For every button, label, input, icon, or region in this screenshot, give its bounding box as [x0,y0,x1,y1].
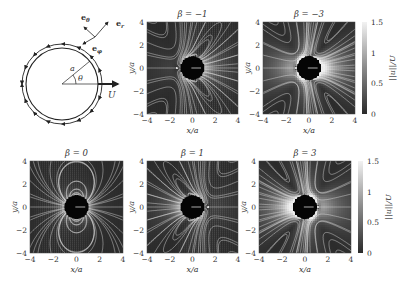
heatmap-cell [163,207,165,209]
heatmap-cell [335,211,337,213]
heatmap-cell [74,247,76,249]
heatmap-cell [343,237,345,239]
heatmap-cell [72,163,74,165]
heatmap-cell [79,245,81,247]
heatmap-cell [347,92,349,94]
heatmap-cell [317,235,319,237]
heatmap-cell [173,223,175,225]
heatmap-cell [165,181,167,183]
heatmap-cell [157,70,159,72]
heatmap-cell [208,209,210,211]
heatmap-cell [62,183,64,185]
heatmap-cell [196,28,198,30]
heatmap-cell [295,183,297,185]
heatmap-cell [115,223,117,225]
heatmap-cell [214,108,216,110]
heatmap-cell [105,181,107,183]
heatmap-cell [234,199,236,201]
heatmap-cell [341,241,343,243]
heatmap-cell [36,209,38,211]
heatmap-cell [335,22,337,24]
heatmap-cell [234,177,236,179]
heatmap-cell [169,185,171,187]
heatmap-cell [283,44,285,46]
panel-beta--1: β = −1−4−2024−4−2024x/ay/a [127,9,241,135]
heatmap-cell [319,22,321,24]
heatmap-cell [163,90,165,92]
heatmap-cell [206,233,208,235]
heatmap-cell [291,183,293,185]
heatmap-cell [62,235,64,237]
heatmap-cell [36,167,38,169]
heatmap-cell [269,223,271,225]
heatmap-cell [210,167,212,169]
heatmap-cell [347,221,349,223]
heatmap-cell [333,175,335,177]
heatmap-cell [161,211,163,213]
heatmap-cell [273,106,275,108]
heatmap-cell [271,90,273,92]
surface-velocity-arrow [34,112,47,121]
heatmap-cell [214,209,216,211]
heatmap-cell [273,247,275,249]
heatmap-cell [183,163,185,165]
heatmap-cell [287,247,289,249]
heatmap-cell [333,32,335,34]
heatmap-cell [327,193,329,195]
heatmap-cell [52,179,54,181]
heatmap-cell [83,167,85,169]
heatmap-cell [155,104,157,106]
heatmap-cell [179,94,181,96]
heatmap-cell [279,98,281,100]
heatmap-cell [293,96,295,98]
heatmap-cell [157,175,159,177]
heatmap-cell [287,94,289,96]
heatmap-cell [149,245,151,247]
heatmap-cell [285,38,287,40]
heatmap-cell [216,104,218,106]
heatmap-cell [44,245,46,247]
heatmap-cell [317,177,319,179]
heatmap-cell [271,96,273,98]
heatmap-cell [295,46,297,48]
heatmap-cell [113,183,115,185]
heatmap-cell [161,199,163,201]
heatmap-cell [68,233,70,235]
heatmap-cell [149,191,151,193]
heatmap-cell [269,74,271,76]
heatmap-cell [79,165,81,167]
heatmap-cell [64,237,66,239]
heatmap-cell [325,215,327,217]
heatmap-cell [151,36,153,38]
heatmap-cell [234,249,236,251]
heatmap-cell [317,179,319,181]
heatmap-cell [345,243,347,245]
heatmap-cell [341,102,343,104]
heatmap-cell [339,209,341,211]
heatmap-cell [175,161,177,163]
y-tick-label: 2 [139,180,144,189]
heatmap-cell [333,237,335,239]
heatmap-cell [230,167,232,169]
heatmap-cell [149,173,151,175]
heatmap-cell [321,38,323,40]
heatmap-cell [175,209,177,211]
heatmap-cell [202,173,204,175]
heatmap-cell [341,211,343,213]
heatmap-cell [163,227,165,229]
heatmap-cell [115,193,117,195]
heatmap-cell [83,237,85,239]
heatmap-cell [38,211,40,213]
heatmap-cell [311,241,313,243]
heatmap-cell [293,28,295,30]
heatmap-cell [115,201,117,203]
heatmap-cell [285,88,287,90]
heatmap-cell [321,36,323,38]
heatmap-cell [206,167,208,169]
heatmap-cell [161,249,163,251]
heatmap-cell [319,165,321,167]
heatmap-cell [107,197,109,199]
heatmap-cell [117,171,119,173]
heatmap-cell [97,173,99,175]
heatmap-cell [230,197,232,199]
